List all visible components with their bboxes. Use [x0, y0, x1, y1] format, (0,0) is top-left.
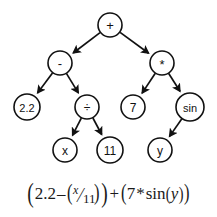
node-label-minus: - — [58, 56, 62, 71]
tree-node-const7[interactable]: 7 — [121, 95, 145, 119]
formula-close-argument-paren: ) — [179, 186, 184, 201]
formula-plus-operator: + — [109, 184, 121, 204]
formula-open-fraction-paren: ( — [67, 184, 73, 202]
tree-node-varx[interactable]: x — [53, 138, 77, 162]
node-label-const7: 7 — [130, 101, 137, 115]
node-label-sin: sin — [183, 102, 197, 114]
formula-times-operator: * — [135, 184, 146, 204]
formula-variable-y: y — [171, 184, 179, 204]
tree-edge-minus-to-divide — [67, 74, 79, 93]
tree-node-vary[interactable]: y — [148, 138, 172, 162]
tree-node-sin[interactable]: sin — [176, 93, 204, 121]
tree-edge-sin-to-vary — [169, 119, 181, 136]
node-label-times: * — [159, 57, 164, 72]
node-label-varx: x — [62, 144, 68, 158]
formula-row: (2.2–(x⁄11))+(7*sin(y)) — [0, 170, 217, 217]
node-label-vary: y — [157, 144, 163, 158]
formula-close-fraction-paren: ) — [95, 184, 101, 202]
formula-minus-operator: – — [56, 184, 67, 204]
formula-open-outer-left-paren: ( — [28, 183, 34, 205]
expression-tree-canvas: +-*2.2÷7sinx11y — [0, 0, 217, 170]
formula-close-outer-left-paren: ) — [101, 183, 107, 205]
tree-edge-times-to-sin — [169, 74, 180, 92]
nodes-layer: +-*2.2÷7sinx11y — [14, 13, 204, 163]
formula-close-outer-right-paren: ) — [184, 184, 190, 202]
formula-fraction-x-over-11: x⁄11 — [73, 184, 94, 204]
tree-edge-divide-to-varx — [73, 118, 82, 135]
expression-tree-figure: +-*2.2÷7sinx11y (2.2–(x⁄11))+(7*sin(y)) — [0, 0, 217, 217]
formula-fraction-slash: ⁄ — [79, 183, 82, 208]
formula-const-22: 2.2 — [35, 184, 56, 204]
formula-open-argument-paren: ( — [166, 186, 171, 201]
node-label-root: + — [106, 18, 114, 33]
tree-node-times[interactable]: * — [150, 51, 174, 75]
tree-edge-root-to-minus — [73, 33, 100, 53]
tree-edge-minus-to-const22 — [38, 73, 53, 93]
tree-edge-times-to-const7 — [142, 73, 155, 93]
tree-node-divide[interactable]: ÷ — [75, 95, 99, 119]
node-label-const22: 2.2 — [19, 102, 34, 114]
expression-formula: (2.2–(x⁄11))+(7*sin(y)) — [27, 183, 190, 205]
edges-layer — [38, 32, 182, 136]
tree-node-root[interactable]: + — [98, 13, 122, 37]
node-label-const11: 11 — [104, 144, 117, 158]
tree-node-const22[interactable]: 2.2 — [14, 94, 40, 120]
formula-sin-function: sin — [146, 184, 166, 204]
formula-const-7: 7 — [127, 184, 136, 204]
tree-edge-divide-to-const11 — [93, 118, 102, 134]
node-label-divide: ÷ — [84, 101, 91, 115]
tree-edge-root-to-times — [120, 32, 149, 53]
formula-fraction-numerator: x — [73, 183, 78, 198]
formula-open-outer-right-paren: ( — [121, 184, 127, 202]
tree-node-minus[interactable]: - — [48, 51, 72, 75]
tree-node-const11[interactable]: 11 — [97, 137, 123, 163]
